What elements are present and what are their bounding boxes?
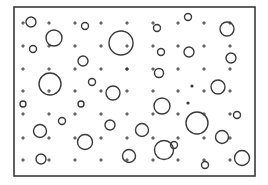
background (0, 0, 268, 185)
dot-marker (125, 67, 128, 70)
dot-marker (190, 84, 193, 87)
circle-grid-diagram (0, 0, 268, 185)
dot-marker (186, 101, 189, 104)
